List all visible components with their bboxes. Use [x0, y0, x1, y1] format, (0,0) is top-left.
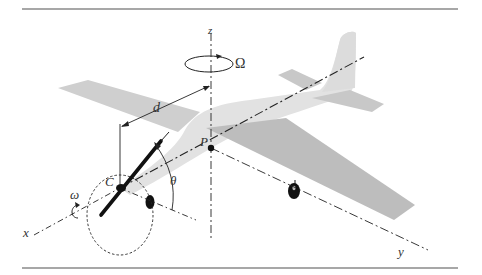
d-arrowhead-right	[203, 86, 210, 91]
omega-rotation-arrow	[185, 56, 233, 72]
label-y: y	[396, 244, 404, 259]
d-arrowhead-left	[121, 121, 129, 127]
airplane-propeller-diagram: z Ω d P C θ ω x y	[0, 0, 482, 275]
right-wing	[206, 118, 415, 220]
left-stabilizer	[278, 69, 322, 90]
point-p	[208, 145, 214, 151]
label-omega-upper: Ω	[235, 56, 245, 71]
label-omega-lower: ω	[70, 187, 79, 202]
left-wing	[58, 80, 200, 132]
label-x: x	[22, 225, 29, 240]
nose-wheel	[146, 195, 155, 209]
propeller-line-extension	[161, 132, 169, 141]
omega-arrowhead	[216, 54, 222, 59]
label-d: d	[153, 100, 161, 115]
omega-spin-arrowhead	[75, 202, 80, 208]
label-p: P	[199, 134, 208, 149]
propeller-hub	[116, 184, 126, 192]
label-z: z	[207, 24, 213, 36]
label-theta: θ	[170, 173, 177, 188]
label-c: C	[105, 174, 114, 189]
